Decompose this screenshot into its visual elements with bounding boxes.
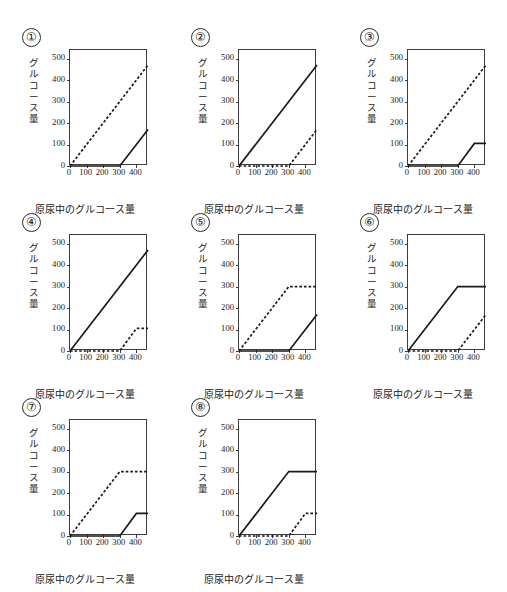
series-line-solid [70,250,148,351]
series-line-dashed [239,513,317,536]
chart-panel: ④グルコース量01002003004005000100200300400原尿中の… [0,207,169,392]
plot-frame [69,419,147,535]
y-tick-label: 0 [399,346,403,355]
y-axis-label-char: ー [365,277,378,288]
y-tick-labels: 0100200300400500 [40,44,65,179]
y-tick-labels: 0100200300400500 [378,44,403,179]
x-tick-label: 0 [236,538,240,547]
y-tick-label: 400 [221,445,234,454]
y-tick-label: 500 [390,53,403,62]
plot-frame [69,49,147,165]
y-tick-label: 300 [221,466,234,475]
chart-area: グルコース量01002003004005000100200300400原尿中のグ… [0,229,169,364]
y-axis-label-char: 量 [196,484,209,495]
y-tick-label: 100 [221,139,234,148]
series-layer [239,420,317,536]
y-axis-label-char: グ [27,243,40,254]
y-axis-label: グルコース量 [27,428,40,496]
y-axis-label-char: ス [196,473,209,484]
plot-frame [407,234,485,350]
y-axis-label-char: ル [27,439,40,450]
y-axis-label-char: 量 [196,299,209,310]
y-axis-label-char: グ [196,428,209,439]
x-tick-label: 100 [417,353,430,362]
y-axis-label-char: ー [27,462,40,473]
x-tick-label: 200 [265,538,278,547]
chart-panel: ②グルコース量01002003004005000100200300400原尿中の… [169,22,338,207]
y-tick-label: 500 [52,423,65,432]
x-tick-label: 0 [67,168,71,177]
y-axis-label-char: ル [196,439,209,450]
y-axis-label-char: 量 [196,114,209,125]
chart-area: グルコース量01002003004005000100200300400原尿中のグ… [0,44,169,179]
series-line-dashed [239,287,317,351]
series-line-solid [239,314,317,351]
chart-panel: ⑦グルコース量01002003004005000100200300400原尿中の… [0,392,169,577]
y-tick-label: 400 [52,75,65,84]
chart-panel: ⑤グルコース量01002003004005000100200300400原尿中の… [169,207,338,392]
chart-area: グルコース量01002003004005000100200300400原尿中のグ… [338,229,507,364]
chart-area: グルコース量01002003004005000100200300400原尿中のグ… [169,229,338,364]
series-line-dashed [70,472,148,536]
y-axis-label-char: ス [27,288,40,299]
chart-area: グルコース量01002003004005000100200300400原尿中のグ… [338,44,507,179]
plot-frame [407,49,485,165]
x-tick-label: 300 [281,538,294,547]
series-layer [408,235,486,351]
y-axis-label: グルコース量 [365,243,378,311]
y-tick-label: 300 [52,281,65,290]
y-tick-label: 0 [61,346,65,355]
x-tick-label: 300 [112,168,125,177]
y-tick-label: 0 [61,161,65,170]
y-axis-label-char: グ [196,58,209,69]
series-layer [239,235,317,351]
y-axis-label: グルコース量 [365,58,378,126]
y-axis-label-char: ル [27,69,40,80]
y-axis-label-char: コ [196,266,209,277]
x-tick-label: 100 [79,353,92,362]
y-axis-label-char: ー [365,92,378,103]
y-axis-label: グルコース量 [196,243,209,311]
y-tick-label: 200 [52,488,65,497]
y-axis-label-char: ス [196,103,209,114]
series-line-solid [239,65,317,166]
y-tick-label: 300 [52,466,65,475]
plot-frame [69,234,147,350]
x-tick-label: 0 [67,538,71,547]
plot-frame [238,234,316,350]
y-tick-label: 0 [230,346,234,355]
series-layer [239,50,317,166]
y-axis-label-char: コ [27,451,40,462]
y-tick-label: 500 [221,53,234,62]
x-tick-label: 400 [129,168,142,177]
y-axis-label-char: ー [27,277,40,288]
y-tick-label: 500 [52,53,65,62]
x-tick-label: 0 [236,168,240,177]
y-axis-label-char: コ [365,266,378,277]
x-tick-label: 100 [248,538,261,547]
y-axis-label-char: ス [365,288,378,299]
x-tick-label: 400 [467,168,480,177]
y-tick-label: 400 [52,260,65,269]
y-tick-label: 400 [52,445,65,454]
y-tick-label: 0 [230,531,234,540]
x-tick-label: 300 [281,353,294,362]
y-tick-label: 100 [221,509,234,518]
chart-panel: ⑧グルコース量01002003004005000100200300400原尿中の… [169,392,338,577]
y-axis-label-char: グ [27,428,40,439]
y-tick-label: 300 [52,96,65,105]
y-tick-labels: 0100200300400500 [40,229,65,364]
x-tick-label: 400 [129,538,142,547]
y-tick-label: 400 [221,75,234,84]
y-tick-label: 200 [390,303,403,312]
chart-area: グルコース量01002003004005000100200300400原尿中のグ… [169,44,338,179]
x-tick-label: 400 [467,353,480,362]
series-line-dashed [408,314,486,351]
y-tick-label: 0 [61,531,65,540]
x-tick-label: 0 [405,168,409,177]
series-layer [408,50,486,166]
y-axis-label-char: ス [365,103,378,114]
chart-area: グルコース量01002003004005000100200300400原尿中のグ… [0,414,169,549]
x-tick-label: 0 [236,353,240,362]
y-axis-label-char: 量 [27,484,40,495]
